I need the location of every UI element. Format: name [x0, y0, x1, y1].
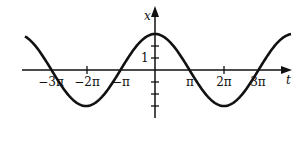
x-tick-label: 3π [250, 75, 266, 89]
x-axis-arrow-icon [151, 6, 159, 17]
cosine-graph: x t 1 −3π−2π−ππ2π3π [0, 0, 302, 148]
t-axis-label: t [286, 73, 291, 87]
x-tick-label: −2π [74, 75, 100, 89]
y-tick-label: 1 [141, 51, 149, 65]
x-tick-label: −π [112, 75, 130, 89]
x-tick-label: π [186, 75, 194, 89]
x-tick-label: −3π [38, 75, 64, 89]
x-axis-label: x [144, 9, 151, 23]
x-tick-label: 2π [216, 75, 232, 89]
